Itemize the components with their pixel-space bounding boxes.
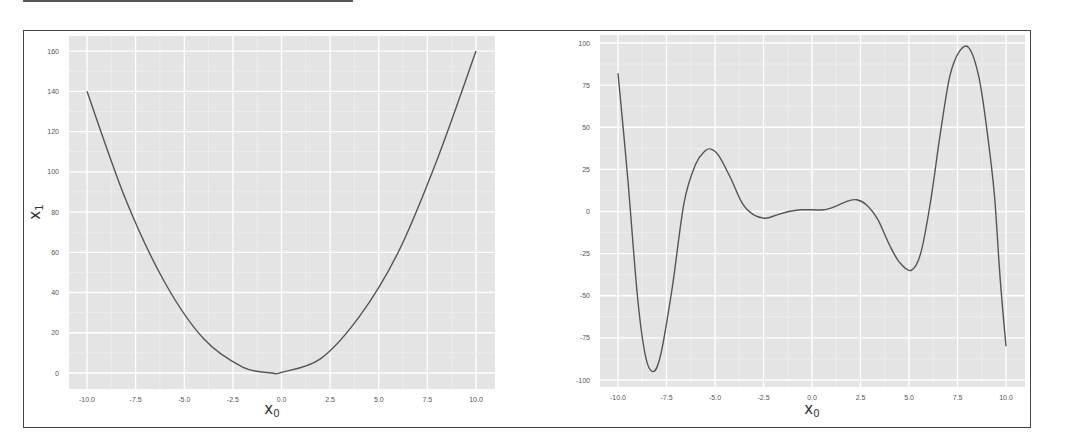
x-tick-label: 7.5 [953,394,963,401]
x-tick-label: 2.5 [856,394,866,401]
right-y-tick-labels: -100-75-50-250255075100 [576,40,590,384]
y-tick-label: -75 [580,334,590,341]
y-tick-label: -25 [580,250,590,257]
y-tick-label: 25 [582,166,590,173]
y-tick-label: -50 [580,292,590,299]
x-tick-label: -5.0 [709,394,721,401]
y-tick-label: 0 [586,208,590,215]
y-tick-label: 100 [578,40,590,47]
y-tick-label: 50 [582,124,590,131]
y-tick-label: 75 [582,82,590,89]
x-tick-label: -7.5 [660,394,672,401]
x-tick-label: 10.0 [999,394,1013,401]
right-x-axis-label: x0 [804,400,819,419]
right-chart: -100-75-50-250255075100 -10.0-7.5-5.0-2.… [0,0,1067,448]
x-tick-label: -2.5 [757,394,769,401]
x-tick-label: 5.0 [904,394,914,401]
x-tick-label: -10.0 [610,394,626,401]
y-tick-label: -100 [576,377,590,384]
